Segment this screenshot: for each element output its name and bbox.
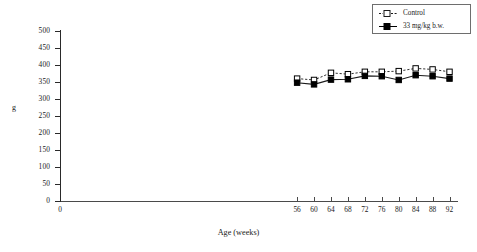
series-line [297, 75, 449, 84]
data-point-marker [447, 69, 452, 74]
data-point-marker [430, 67, 435, 72]
legend-entry-dose: 33 mg/kg b.w. [373, 20, 472, 33]
data-point-marker [328, 70, 333, 75]
data-point-marker [328, 77, 333, 82]
data-point-marker [447, 76, 452, 81]
data-point-marker [379, 74, 384, 79]
legend-entry-control: Control [373, 7, 472, 20]
data-point-marker [396, 68, 401, 73]
data-point-marker [413, 73, 418, 78]
data-point-marker [345, 77, 350, 82]
data-point-marker [294, 80, 299, 85]
data-point-marker [362, 73, 367, 78]
series-layer [0, 0, 477, 252]
series-control [294, 66, 452, 83]
weight-vs-age-line-chart: 050100150200250300350400450500 056606468… [0, 0, 477, 252]
legend-label-control: Control [403, 8, 425, 19]
data-point-marker [430, 74, 435, 79]
open-square-marker-icon [379, 7, 401, 20]
legend: Control 33 mg/kg b.w. [372, 4, 471, 34]
legend-label-dose: 33 mg/kg b.w. [403, 21, 444, 32]
data-point-marker [345, 71, 350, 76]
filled-square-marker-icon [379, 20, 401, 33]
data-point-marker [396, 77, 401, 82]
series-dose [294, 73, 452, 88]
data-point-marker [413, 66, 418, 71]
series-line [297, 68, 449, 80]
data-point-marker [311, 82, 316, 87]
